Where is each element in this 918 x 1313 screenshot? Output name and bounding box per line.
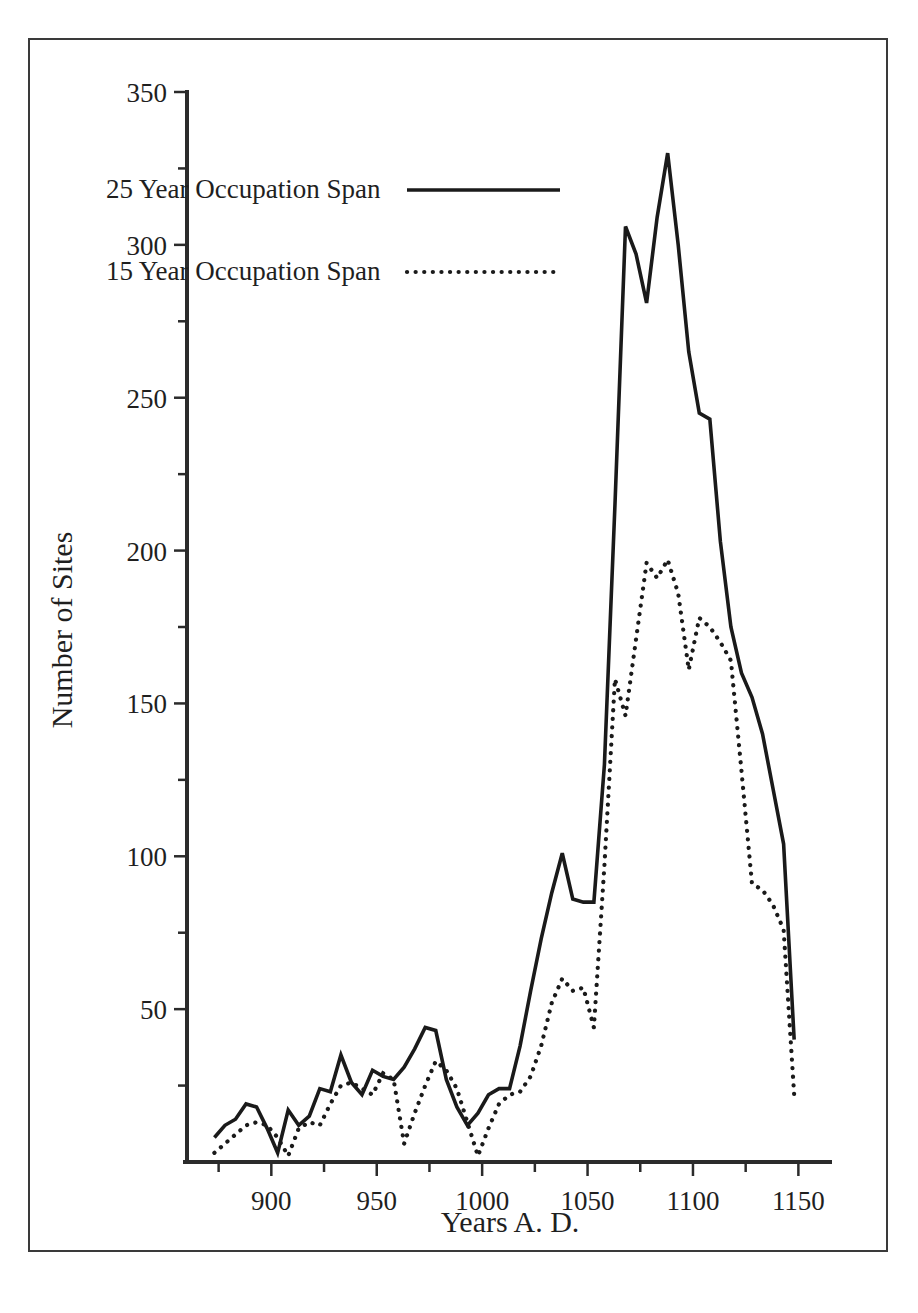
x-tick-label: 900 <box>251 1186 292 1216</box>
legend-label-25-year: 25 Year Occupation Span <box>106 174 381 204</box>
line-chart: 50100150200250300350 9009501000105011001… <box>30 40 886 1250</box>
y-tick-label: 50 <box>140 995 167 1025</box>
y-tick-label: 200 <box>127 537 168 567</box>
figure-frame: 50100150200250300350 9009501000105011001… <box>28 38 888 1252</box>
y-tick-label: 250 <box>127 384 168 414</box>
y-axis-title: Number of Sites <box>45 532 78 729</box>
y-tick-label: 350 <box>127 78 168 108</box>
legend: 25 Year Occupation Span 15 Year Occupati… <box>106 174 560 286</box>
y-tick-label: 100 <box>127 842 168 872</box>
x-axis-title: Years A. D. <box>441 1205 580 1238</box>
x-axis-ticks <box>219 1162 799 1176</box>
x-tick-label: 1150 <box>772 1186 825 1216</box>
series-line-15-year <box>214 560 794 1156</box>
x-tick-label: 1100 <box>666 1186 719 1216</box>
x-tick-label: 950 <box>356 1186 397 1216</box>
y-tick-label: 150 <box>127 689 168 719</box>
y-axis-tick-labels: 50100150200250300350 <box>127 78 168 1025</box>
legend-label-15-year: 15 Year Occupation Span <box>106 256 381 286</box>
series-line-25-year <box>214 153 794 1153</box>
